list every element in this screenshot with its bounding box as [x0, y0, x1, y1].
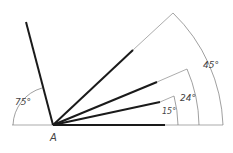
angle-diagram: 75° 45° 24° 15° A: [0, 0, 233, 153]
ray-45-thin: [133, 13, 173, 50]
label-75: 75°: [15, 97, 31, 107]
ray-75: [26, 22, 53, 125]
ray-15-thick: [53, 102, 160, 125]
label-45: 45°: [203, 60, 219, 70]
ray-24-thick: [53, 82, 157, 125]
vertex-label: A: [49, 132, 57, 143]
ray-24-thin: [157, 69, 187, 82]
label-24: 24°: [180, 93, 196, 103]
label-15: 15°: [162, 107, 176, 116]
ray-15-thin: [160, 96, 174, 102]
ray-45-thick: [53, 50, 133, 125]
